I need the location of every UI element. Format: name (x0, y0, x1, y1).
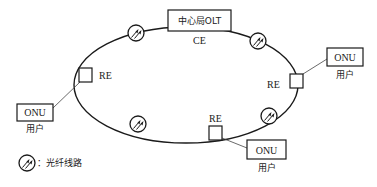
onu-right-label: ONU (334, 52, 356, 63)
legend-fiber-icon (19, 155, 35, 171)
re-left-label: RE (99, 70, 112, 81)
fiber-line-icon (128, 25, 144, 41)
re-left-node[interactable] (79, 68, 92, 82)
fiber-line-icon (250, 33, 266, 49)
fiber-line-icon (130, 116, 146, 132)
link-right (303, 59, 327, 74)
center-node-sublabel: CE (193, 35, 206, 46)
re-bottom-node[interactable] (209, 126, 222, 140)
onu-bottom-user: 用户 (258, 162, 276, 173)
center-node-label: 中心局OLT (178, 15, 222, 26)
onu-left-user: 用户 (26, 123, 44, 134)
onu-left[interactable]: ONU (17, 104, 53, 121)
onu-left-label: ONU (24, 107, 46, 118)
fiber-line-icon (261, 108, 277, 124)
onu-right-user: 用户 (336, 69, 354, 80)
center-node-olt[interactable]: 中心局OLT (168, 10, 231, 31)
re-right-label: RE (267, 79, 280, 90)
re-bottom-label: RE (209, 113, 222, 124)
legend-label: ：光纤线路 (37, 157, 82, 168)
re-right-node[interactable] (290, 74, 303, 88)
link-bottom (222, 138, 247, 148)
fiber-ring-diagram: 中心局OLT CE RE RE RE ONU 用户 ONU 用户 ONU 用户 … (0, 0, 377, 187)
onu-bottom[interactable]: ONU (247, 140, 286, 159)
onu-bottom-label: ONU (256, 145, 278, 156)
onu-right[interactable]: ONU (327, 48, 363, 66)
